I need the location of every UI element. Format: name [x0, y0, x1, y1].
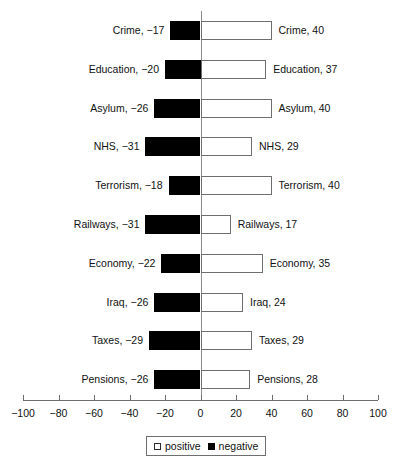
- bar-label-negative: Taxes, −29: [92, 334, 143, 347]
- bar-row: Economy, −22Economy, 35: [0, 254, 402, 274]
- bar-label-positive: Taxes, 29: [259, 334, 304, 347]
- x-axis-tick: [201, 395, 202, 400]
- bar-positive: [201, 60, 267, 79]
- legend-swatch-positive-icon: [154, 443, 161, 450]
- bar-positive: [201, 293, 244, 312]
- legend-entry: negative: [208, 440, 259, 453]
- bar-label-negative: Crime, −17: [113, 24, 165, 37]
- bar-negative: [161, 254, 200, 273]
- legend-label: positive: [165, 440, 201, 453]
- bar-label-negative: Economy, −22: [89, 257, 156, 270]
- chart-legend: positivenegative: [146, 436, 266, 456]
- x-axis-tick-label: 100: [353, 407, 402, 419]
- x-axis-tick: [130, 395, 131, 400]
- bar-row: Railways, −31Railways, 17: [0, 215, 402, 235]
- bar-row: Education, −20Education, 37: [0, 60, 402, 80]
- bar-negative: [154, 370, 200, 389]
- bar-label-positive: Terrorism, 40: [279, 179, 340, 192]
- bar-positive: [201, 176, 272, 195]
- bar-label-negative: Iraq, −26: [107, 296, 149, 309]
- bar-row: NHS, −31NHS, 29: [0, 137, 402, 157]
- bar-negative: [145, 215, 200, 234]
- x-axis-tick: [236, 395, 237, 400]
- bar-row: Pensions, −26Pensions, 28: [0, 370, 402, 390]
- diverging-bar-chart: Crime, −17Crime, 40Education, −20Educati…: [0, 0, 402, 466]
- bar-positive: [201, 21, 272, 40]
- x-axis-tick: [23, 395, 24, 400]
- bar-negative: [149, 331, 200, 350]
- bar-label-positive: Asylum, 40: [279, 102, 331, 115]
- x-axis-tick: [272, 395, 273, 400]
- bar-label-negative: Asylum, −26: [90, 102, 148, 115]
- x-axis-line: [23, 400, 378, 401]
- bar-negative: [169, 176, 201, 195]
- bar-positive: [201, 215, 231, 234]
- x-axis-tick: [59, 395, 60, 400]
- bar-row: Asylum, −26Asylum, 40: [0, 99, 402, 119]
- bar-label-negative: Education, −20: [89, 63, 159, 76]
- bar-label-positive: Railways, 17: [238, 218, 298, 231]
- bar-label-positive: Economy, 35: [270, 257, 331, 270]
- bar-label-positive: Education, 37: [273, 63, 337, 76]
- bar-negative: [154, 293, 200, 312]
- bar-positive: [201, 370, 251, 389]
- bar-negative: [165, 60, 201, 79]
- bar-label-positive: NHS, 29: [259, 140, 299, 153]
- bar-label-positive: Iraq, 24: [250, 296, 286, 309]
- x-axis-tick: [378, 395, 379, 400]
- bar-label-negative: Railways, −31: [74, 218, 140, 231]
- bar-row: Iraq, −26Iraq, 24: [0, 293, 402, 313]
- bar-row: Terrorism, −18Terrorism, 40: [0, 176, 402, 196]
- bar-label-positive: Crime, 40: [279, 24, 325, 37]
- bar-positive: [201, 331, 252, 350]
- x-axis-tick: [94, 395, 95, 400]
- bar-row: Crime, −17Crime, 40: [0, 21, 402, 41]
- bar-label-negative: NHS, −31: [94, 140, 140, 153]
- bar-negative: [154, 99, 200, 118]
- bar-negative: [145, 137, 200, 156]
- bar-label-negative: Terrorism, −18: [95, 179, 162, 192]
- bar-row: Taxes, −29Taxes, 29: [0, 331, 402, 351]
- bar-negative: [170, 21, 200, 40]
- bar-positive: [201, 254, 263, 273]
- plot-area: Crime, −17Crime, 40Education, −20Educati…: [0, 0, 402, 400]
- legend-entry: positive: [154, 440, 201, 453]
- bar-positive: [201, 137, 252, 156]
- legend-swatch-negative-icon: [208, 443, 215, 450]
- x-axis-tick: [165, 395, 166, 400]
- legend-label: negative: [219, 440, 259, 453]
- bar-positive: [201, 99, 272, 118]
- bar-label-positive: Pensions, 28: [257, 373, 318, 386]
- bar-label-negative: Pensions, −26: [82, 373, 149, 386]
- x-axis-tick: [307, 395, 308, 400]
- x-axis-tick: [343, 395, 344, 400]
